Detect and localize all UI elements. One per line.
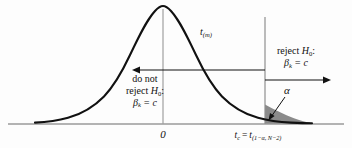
- t-distribution-hypothesis-test-figure: t(m) α 0 tc=t(1−α, N−2) do not reject H0…: [0, 0, 352, 148]
- do-not-reject-line2-symbol: H: [151, 85, 158, 96]
- reject-line2-subscript: k: [289, 62, 292, 69]
- origin-tick-label: 0: [160, 128, 166, 141]
- alpha-label: α: [284, 84, 290, 97]
- chart-canvas: [0, 0, 352, 148]
- reject-line1-subscript: 0: [309, 50, 312, 57]
- do-not-reject-line2: reject H0:: [126, 85, 164, 97]
- do-not-reject-line2-text: reject: [126, 85, 151, 96]
- t-density-curve: [35, 6, 312, 123]
- critical-value-rhs-subscript: (1−α, N−2): [252, 134, 282, 141]
- reject-region-label: reject H0: βk = c: [277, 45, 315, 69]
- do-not-reject-line2-colon: :: [161, 85, 164, 96]
- curve-label-subscript: (m): [203, 31, 212, 38]
- reject-arrow: [265, 77, 331, 84]
- reject-line1-symbol: H: [302, 45, 309, 56]
- critical-value-equals: =: [240, 130, 249, 140]
- critical-value-label: tc=t(1−α, N−2): [235, 130, 282, 141]
- do-not-reject-line1: do not: [126, 73, 164, 85]
- do-not-reject-line3: βk = c: [126, 97, 164, 109]
- critical-value-lhs-subscript: c: [237, 134, 240, 141]
- do-not-reject-line2-subscript: 0: [158, 90, 161, 97]
- reject-line2: βk = c: [277, 57, 315, 69]
- do-not-reject-line3-rest: = c: [141, 97, 157, 108]
- do-not-reject-line3-subscript: k: [138, 101, 141, 108]
- reject-line1-colon: :: [312, 45, 315, 56]
- reject-line2-rest: = c: [292, 57, 308, 68]
- reject-line1-text: reject: [277, 45, 302, 56]
- curve-label: t(m): [200, 26, 212, 38]
- reject-line1: reject H0:: [277, 45, 315, 57]
- do-not-reject-region-label: do not reject H0: βk = c: [126, 73, 164, 108]
